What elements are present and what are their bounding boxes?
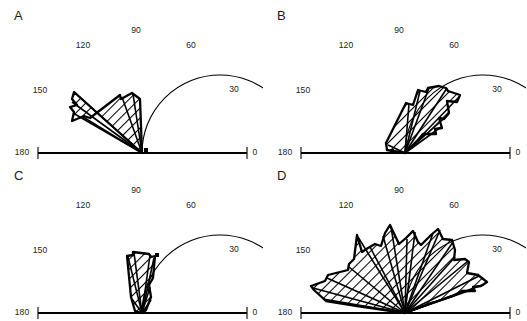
panel-d-tick-150: 150 — [296, 245, 311, 255]
panel-b-tick-150: 150 — [296, 85, 311, 95]
panel-d-tick-30: 30 — [492, 244, 502, 254]
panel-c-tick-0: 0 — [253, 307, 258, 317]
panel-c-tick-60: 60 — [186, 200, 196, 210]
panel-c-plot: 1801501209060300 — [0, 160, 263, 320]
panel-d: D 1801501209060300 — [263, 160, 526, 320]
panel-b-tick-60: 60 — [449, 40, 459, 50]
panel-a-marker — [144, 148, 148, 152]
panel-c-marker — [155, 253, 159, 257]
panel-a-tick-90: 90 — [131, 25, 141, 35]
panel-a-tick-60: 60 — [186, 40, 196, 50]
panel-a-tick-0: 0 — [253, 147, 258, 157]
panel-c-tick-150: 150 — [33, 245, 48, 255]
panel-a: A 18015012090 — [0, 0, 263, 160]
panel-a-tick-150: 150 — [33, 85, 48, 95]
panel-b-tick-120: 120 — [339, 40, 354, 50]
panel-d-tick-0: 0 — [516, 307, 521, 317]
panel-a-hatch-fill — [0, 0, 263, 160]
panel-b-plot: 1801501209060300 — [263, 0, 526, 160]
panel-a-tick-120: 120 — [76, 40, 91, 50]
panel-c-tick-120: 120 — [76, 200, 91, 210]
panel-d-plot: 1801501209060300 — [263, 160, 526, 320]
panel-b-hatch-fill — [263, 0, 526, 160]
panel-c: C 1801501209060300 — [0, 160, 263, 320]
panel-d-tick-90: 90 — [394, 185, 404, 195]
panel-a-tick-180: 180 — [15, 147, 30, 157]
figure-container: A 18015012090 — [0, 0, 527, 321]
panel-c-tick-30: 30 — [229, 244, 239, 254]
panel-c-tick-180: 180 — [15, 307, 30, 317]
panel-b-tick-0: 0 — [516, 147, 521, 157]
panel-b: B 1801501209060300 — [263, 0, 526, 160]
panel-d-tick-60: 60 — [449, 200, 459, 210]
panel-a-plot: 1801501209060300 — [0, 0, 263, 160]
panel-d-tick-120: 120 — [339, 200, 354, 210]
panel-a-arc — [142, 75, 263, 153]
panel-b-tick-180: 180 — [278, 147, 293, 157]
panel-d-tick-180: 180 — [278, 307, 293, 317]
panel-b-tick-90: 90 — [394, 25, 404, 35]
panel-c-tick-90: 90 — [131, 185, 141, 195]
panel-b-marker — [390, 149, 394, 153]
panel-c-arc — [142, 235, 263, 313]
panel-b-tick-30: 30 — [492, 84, 502, 94]
panel-a-tick-30: 30 — [229, 84, 239, 94]
